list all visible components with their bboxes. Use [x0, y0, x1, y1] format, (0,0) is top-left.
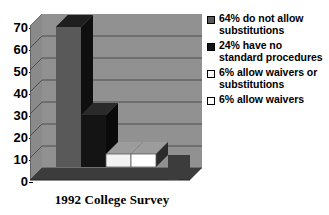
- legend-swatch-icon-4: [207, 97, 215, 105]
- x-axis-title: 1992 College Survey: [22, 192, 202, 208]
- plot-svg: [30, 8, 202, 186]
- legend-swatch-icon-2: [207, 43, 215, 51]
- chart-legend: 64% do not allow substitutions 24% have …: [207, 13, 327, 110]
- y-tick-label-60: 60: [0, 45, 28, 55]
- legend-item-1[interactable]: 64% do not allow substitutions: [207, 13, 327, 36]
- legend-label-3: 6% allow waivers or substitutions: [219, 67, 327, 90]
- y-tick-label-30: 30: [0, 111, 28, 121]
- bar-1-front: [56, 27, 81, 167]
- bar-3-front: [106, 154, 131, 167]
- bar-chart: 70 60 50 40 30 20 10 0: [0, 0, 329, 215]
- y-tick-label-40: 40: [0, 89, 28, 99]
- legend-label-4: 6% allow waivers: [219, 94, 304, 106]
- y-axis: 70 60 50 40 30 20 10 0: [0, 14, 28, 172]
- plot-left-wall: [30, 14, 42, 180]
- legend-swatch-icon-3: [207, 70, 215, 78]
- plot-area: [30, 8, 202, 186]
- legend-item-2[interactable]: 24% have no standard procedures: [207, 40, 327, 63]
- y-tick-label-0: 0: [0, 177, 28, 187]
- y-tick-label-50: 50: [0, 67, 28, 77]
- y-tick-label-70: 70: [0, 23, 28, 33]
- bar-2-front: [81, 115, 106, 167]
- legend-label-1: 64% do not allow substitutions: [219, 13, 327, 36]
- legend-label-2: 24% have no standard procedures: [219, 40, 327, 63]
- bar-4-front: [131, 154, 156, 167]
- legend-item-4[interactable]: 6% allow waivers: [207, 94, 327, 106]
- legend-swatch-icon-1: [207, 16, 215, 24]
- y-tick-label-20: 20: [0, 133, 28, 143]
- legend-item-3[interactable]: 6% allow waivers or substitutions: [207, 67, 327, 90]
- y-tick-label-10: 10: [0, 155, 28, 165]
